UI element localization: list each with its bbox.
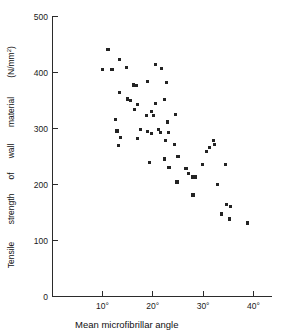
- data-point: [187, 172, 190, 175]
- data-point: [166, 120, 169, 123]
- data-point: [224, 163, 227, 166]
- data-point: [159, 131, 162, 134]
- data-point: [191, 193, 194, 196]
- x-axis-ticks: [103, 291, 254, 297]
- y-tick-label-100: 100: [34, 236, 48, 246]
- data-point: [174, 113, 177, 116]
- y-tick-label-200: 200: [34, 180, 48, 190]
- data-point: [225, 203, 228, 206]
- data-points-group: [101, 48, 249, 225]
- data-point: [139, 128, 142, 131]
- data-point: [110, 68, 113, 71]
- data-point: [146, 130, 149, 133]
- data-point: [154, 63, 157, 66]
- data-point: [133, 108, 136, 111]
- data-point: [160, 67, 163, 70]
- y-tick-label-300: 300: [34, 124, 48, 134]
- data-point: [220, 212, 223, 215]
- y-axis-ticks: [53, 17, 59, 241]
- x-axis-title: Mean microfibrillar angle: [75, 319, 178, 330]
- data-point: [145, 114, 148, 117]
- data-point: [228, 217, 231, 220]
- data-point: [167, 131, 170, 134]
- y-tick-label-0: 0: [43, 292, 48, 302]
- scatter-plot: 500 400 300 200 100 0 10° 20° 30° 40° Me…: [0, 0, 281, 335]
- data-point: [173, 143, 176, 146]
- data-point: [205, 150, 208, 153]
- y-tick-label-400: 400: [34, 68, 48, 78]
- data-point: [135, 84, 138, 87]
- data-point: [201, 163, 204, 166]
- y-axis-units-close: ): [6, 46, 16, 49]
- x-tick-label-30: 30°: [197, 301, 210, 311]
- data-point: [165, 81, 168, 84]
- data-point: [163, 157, 166, 160]
- data-point: [117, 144, 120, 147]
- data-point: [184, 167, 187, 170]
- data-point: [163, 98, 166, 101]
- y-axis-title-word-material: material: [6, 97, 16, 127]
- x-tick-label-40: 40°: [247, 301, 260, 311]
- data-point: [118, 91, 121, 94]
- data-point: [176, 155, 179, 158]
- data-point: [150, 132, 153, 135]
- y-axis-title-word-of: of: [6, 172, 16, 180]
- y-tick-label-500: 500: [34, 12, 48, 22]
- data-point: [213, 143, 216, 146]
- data-point: [164, 139, 167, 142]
- data-point: [212, 139, 215, 142]
- data-point: [136, 137, 139, 140]
- data-point: [118, 58, 121, 61]
- y-axis-title: Tensile strength of wall material (N/mm2…: [6, 46, 16, 268]
- y-axis-title-word-wall: wall: [6, 144, 16, 160]
- y-axis-title-word-strength: strength: [6, 193, 16, 224]
- x-tick-label-10: 10°: [96, 301, 109, 311]
- y-axis-title-word-tensile: Tensile: [6, 242, 16, 269]
- data-point: [154, 102, 157, 105]
- data-point: [148, 161, 151, 164]
- data-point: [152, 114, 155, 117]
- data-point: [101, 68, 104, 71]
- data-point: [106, 48, 109, 51]
- data-point: [125, 66, 128, 69]
- y-axis-units-main: (N/mm: [6, 52, 16, 78]
- data-point: [129, 99, 132, 102]
- data-point: [126, 97, 129, 100]
- data-point: [167, 166, 170, 169]
- figure-container: 500 400 300 200 100 0 10° 20° 30° 40° Me…: [0, 0, 281, 335]
- data-point: [246, 221, 249, 224]
- data-point: [150, 110, 153, 113]
- data-point: [229, 205, 232, 208]
- data-point: [114, 118, 117, 121]
- data-point: [208, 146, 211, 149]
- data-point: [193, 175, 196, 178]
- data-point: [146, 80, 149, 83]
- y-axis-title-units: (N/mm2): [6, 46, 16, 78]
- data-point: [136, 103, 139, 106]
- data-point: [216, 183, 219, 186]
- data-point: [115, 129, 118, 132]
- data-point: [157, 128, 160, 131]
- data-point: [175, 180, 178, 183]
- x-tick-label-20: 20°: [146, 301, 159, 311]
- data-point: [119, 136, 122, 139]
